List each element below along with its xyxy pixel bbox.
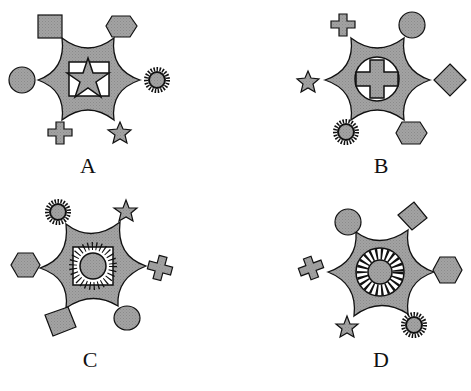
figure-c (11, 200, 175, 336)
hexagon-icon (396, 122, 427, 144)
center-sun-in-circle-icon (356, 248, 404, 296)
figure-a (9, 15, 168, 144)
hexagon-icon (433, 257, 462, 283)
figure-label-d: D (366, 347, 396, 373)
diamond-icon (398, 202, 427, 230)
diagram-canvas (0, 0, 471, 391)
cross-icon (296, 254, 326, 283)
sun-icon (146, 69, 168, 91)
circle-icon (9, 67, 35, 93)
figure-d (296, 202, 462, 337)
diamond-icon (434, 64, 466, 96)
star-icon (336, 316, 358, 337)
cross-icon (145, 253, 174, 282)
hexagon-icon (106, 16, 137, 37)
sun-icon (403, 314, 425, 336)
circle-icon (335, 209, 361, 235)
figure-label-b: B (366, 153, 396, 179)
hexagon-icon (11, 253, 40, 277)
square-icon (38, 15, 62, 38)
star-icon (297, 71, 319, 92)
figure-label-a: A (73, 153, 103, 179)
star-icon (114, 200, 137, 221)
cross-icon (48, 122, 72, 144)
circle-icon (399, 12, 425, 38)
sun-icon (335, 121, 357, 143)
figure-label-c: C (75, 347, 105, 373)
sun-icon (47, 201, 69, 223)
circle-icon (114, 306, 140, 330)
diamond-icon (45, 307, 76, 336)
figure-b (297, 12, 466, 144)
star-icon (108, 122, 131, 143)
cross-icon (331, 14, 355, 36)
